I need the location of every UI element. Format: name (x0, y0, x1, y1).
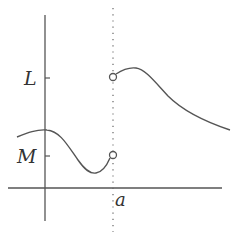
right-curve (116, 68, 230, 130)
label-a: a (115, 189, 126, 210)
open-circle-upper (110, 74, 117, 81)
open-circle-lower (110, 152, 117, 159)
function-graph: L M a (0, 0, 232, 237)
label-L: L (23, 67, 37, 89)
label-M: M (16, 145, 37, 167)
